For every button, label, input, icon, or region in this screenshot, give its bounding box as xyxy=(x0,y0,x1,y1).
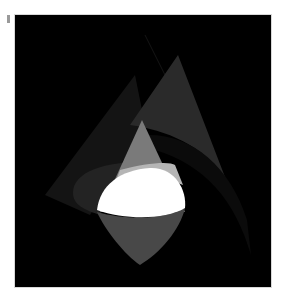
artwork-canvas xyxy=(15,15,271,287)
corner-tick-mark xyxy=(7,15,10,23)
abstract-artwork xyxy=(15,15,271,287)
